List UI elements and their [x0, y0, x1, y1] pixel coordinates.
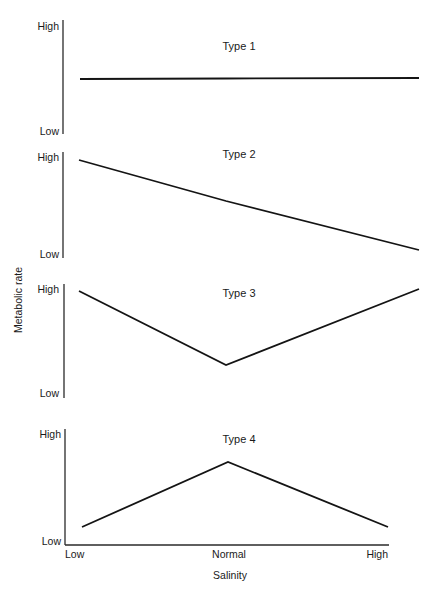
data-line: [79, 160, 419, 250]
data-line: [79, 289, 419, 365]
y-low-label: Low: [40, 248, 60, 260]
panel-title: Type 2: [222, 148, 255, 160]
panel-type-4: High Low Type 4: [39, 428, 389, 547]
y-low-label: Low: [42, 535, 62, 547]
x-tick-high: High: [366, 548, 388, 560]
panel-type-1: High Low Type 1: [37, 20, 419, 137]
panel-type-3: High Low Type 3: [37, 283, 419, 399]
y-axis-label: Metabolic rate: [12, 267, 24, 333]
data-line: [80, 78, 419, 79]
x-tick-normal: Normal: [212, 548, 246, 560]
panel-title: Type 3: [222, 287, 255, 299]
panel-title: Type 4: [222, 433, 255, 445]
data-line: [82, 462, 388, 527]
y-high-label: High: [37, 20, 59, 32]
x-tick-low: Low: [65, 548, 85, 560]
y-high-label: High: [39, 428, 61, 440]
figure-canvas: Metabolic rate High Low Type 1 High Low …: [0, 0, 434, 597]
y-low-label: Low: [40, 125, 60, 137]
y-high-label: High: [37, 151, 59, 163]
y-low-label: Low: [40, 387, 60, 399]
x-axis-label: Salinity: [213, 569, 248, 581]
panel-type-2: High Low Type 2: [37, 148, 419, 260]
panel-title: Type 1: [222, 40, 255, 52]
y-high-label: High: [37, 283, 59, 295]
